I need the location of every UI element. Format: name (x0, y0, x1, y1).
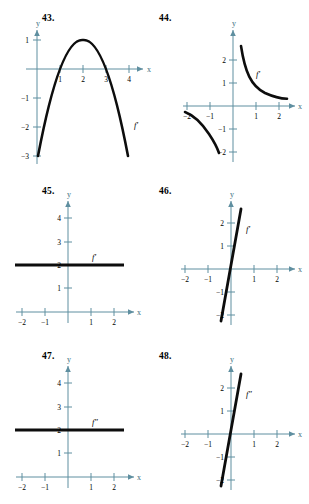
panel-44: 44. (155, 0, 309, 175)
x-axis-arrow (128, 309, 134, 315)
plot-48: y x −2 −1 1 2 2 1 −1 −2 f″ (167, 352, 307, 500)
y-tick-label-neg2: −2 (218, 148, 226, 157)
y-axis-arrow (228, 201, 234, 207)
y-axis-name-48: y (230, 355, 234, 364)
curve-label-44: f′ (256, 69, 260, 79)
x-axis-arrow (137, 66, 143, 72)
y-tick-label-2: 2 (222, 56, 226, 65)
panel-48: 48. y x − (155, 340, 309, 504)
y-tick-label-4: 4 (57, 214, 61, 223)
y-tick-label-2: 2 (57, 426, 61, 435)
x-axis-arrow (289, 431, 295, 437)
y-tick-label-1: 1 (57, 284, 61, 293)
x-tick-label-1: 1 (89, 483, 93, 492)
plot-svg-48: y x −2 −1 1 2 2 1 −1 −2 f″ (167, 352, 307, 500)
panel-46: 46. y (155, 175, 309, 340)
y-tick-label-2: 2 (220, 384, 224, 393)
y-tick-label-2: 2 (57, 261, 61, 270)
y-axis-name-43: y (36, 19, 40, 28)
plot-svg-46: y x −2 −1 1 2 2 1 −1 −2 f′ (167, 187, 307, 335)
x-axis-arrow (289, 103, 295, 109)
curve-label-45: f′ (92, 252, 96, 262)
x-axis-name-44: x (298, 102, 302, 111)
plot-43: y x 1 2 3 4 1 −1 −2 −3 f′ (10, 14, 155, 172)
y-tick-label-1: 1 (222, 79, 226, 88)
x-tick-label-neg2: −2 (181, 275, 189, 284)
curve-label-47: f″ (92, 417, 98, 427)
y-axis-arrow (34, 30, 40, 36)
x-tick-label-neg2: −2 (181, 440, 189, 449)
y-axis-name-45: y (67, 190, 71, 199)
x-axis-name-46: x (298, 265, 302, 274)
y-tick-label-neg2: −2 (21, 123, 29, 132)
curve-label-46: f′ (246, 224, 250, 234)
y-tick-label-1: 1 (220, 407, 224, 416)
x-axis-name-48: x (298, 430, 302, 439)
y-tick-label-neg1: −1 (216, 288, 224, 297)
x-tick-label-neg1: −1 (204, 275, 212, 284)
plot-45: y x −2 −1 1 2 4 3 2 1 f′ (6, 187, 151, 335)
x-tick-label-2: 2 (112, 483, 116, 492)
y-axis-arrow (228, 366, 234, 372)
y-axis-arrow (65, 366, 71, 372)
x-tick-label-neg1: −1 (204, 440, 212, 449)
y-axis-arrow (65, 201, 71, 207)
y-tick-label-neg1: −1 (218, 125, 226, 134)
panel-47: 47. y x − (0, 340, 155, 504)
y-axis-name-47: y (67, 355, 71, 364)
y-tick-label-2: 2 (220, 219, 224, 228)
curve-label-48: f″ (246, 389, 252, 399)
y-tick-label-neg2: −2 (216, 476, 224, 485)
x-tick-label-4: 4 (127, 75, 131, 84)
y-tick-label-neg2: −2 (216, 311, 224, 320)
x-tick-label-neg1: −1 (41, 318, 49, 327)
panel-43: 43. (0, 0, 155, 175)
x-tick-label-1: 1 (252, 440, 256, 449)
x-axis-name-43: x (147, 65, 151, 74)
x-tick-label-neg1: −1 (41, 483, 49, 492)
plot-46: y x −2 −1 1 2 2 1 −1 −2 f′ (167, 187, 307, 335)
x-tick-label-3: 3 (104, 75, 108, 84)
x-tick-label-neg2: −2 (183, 112, 191, 121)
plot-svg-47: y x −2 −1 1 2 4 3 2 1 f″ (6, 352, 151, 500)
axis-group-44 (183, 30, 295, 162)
x-tick-label-2: 2 (277, 112, 281, 121)
curve-label-43: f′ (134, 120, 138, 130)
x-tick-label-2: 2 (81, 75, 85, 84)
plot-44: y x −2 −1 1 2 2 1 −1 −2 f′ (167, 14, 307, 172)
x-axis-arrow (289, 266, 295, 272)
x-tick-label-neg2: −2 (18, 483, 26, 492)
x-tick-label-2: 2 (275, 440, 279, 449)
x-tick-label-neg2: −2 (18, 318, 26, 327)
y-tick-label-1: 1 (25, 36, 29, 45)
x-tick-label-2: 2 (112, 318, 116, 327)
y-tick-label-neg1: −1 (216, 453, 224, 462)
curve-43 (38, 40, 128, 156)
x-axis-name-47: x (137, 473, 141, 482)
y-tick-label-3: 3 (57, 238, 61, 247)
x-tick-label-1: 1 (89, 318, 93, 327)
plot-svg-45: y x −2 −1 1 2 4 3 2 1 f′ (6, 187, 151, 335)
x-tick-label-1: 1 (58, 75, 62, 84)
curve-44-branch-1 (241, 46, 287, 99)
y-tick-label-1: 1 (57, 449, 61, 458)
x-tick-label-1: 1 (254, 112, 258, 121)
panel-45: 45. y (0, 175, 155, 340)
plot-svg-44: y x −2 −1 1 2 2 1 −1 −2 f′ (167, 14, 307, 172)
x-tick-label-1: 1 (252, 275, 256, 284)
y-tick-label-3: 3 (57, 403, 61, 412)
axis-group-45 (16, 201, 134, 323)
plot-47: y x −2 −1 1 2 4 3 2 1 f″ (6, 352, 151, 500)
x-tick-label-2: 2 (275, 275, 279, 284)
x-tick-label-neg1: −1 (206, 112, 214, 121)
y-tick-label-neg3: −3 (21, 152, 29, 161)
plot-svg-43: y x 1 2 3 4 1 −1 −2 −3 f′ (10, 14, 155, 172)
y-axis-arrow (230, 30, 236, 36)
y-tick-label-4: 4 (57, 379, 61, 388)
y-axis-name-44: y (232, 19, 236, 28)
figure-page: 43. (0, 0, 309, 504)
x-axis-arrow (128, 474, 134, 480)
y-tick-label-neg1: −1 (21, 94, 29, 103)
y-axis-name-46: y (230, 190, 234, 199)
x-axis-name-45: x (137, 308, 141, 317)
